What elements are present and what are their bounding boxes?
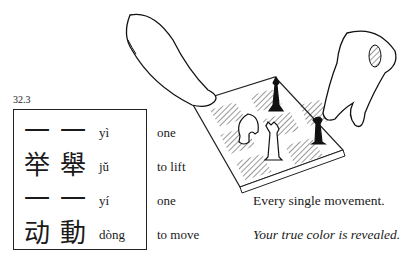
hanzi-simplified: 动 (24, 218, 50, 248)
hanzi-simplified: 一 (24, 184, 50, 214)
gloss: one (157, 193, 176, 209)
left-hand-icon (126, 14, 216, 106)
hanzi-traditional: 一 (60, 184, 86, 214)
hanzi-simplified: 举 (24, 150, 50, 180)
pinyin: dòng (99, 227, 125, 243)
hanzi-traditional: 舉 (60, 150, 86, 180)
figurative-translation: Your true color is revealed. (253, 227, 400, 243)
hanzi-simplified: 一 (24, 116, 50, 146)
section-number: 32.3 (13, 94, 31, 105)
pinyin: yí (99, 193, 109, 209)
hanzi-traditional: 動 (60, 218, 86, 248)
right-hand-icon (323, 31, 396, 126)
chess-hands-illustration (100, 0, 411, 195)
gloss: to move (157, 227, 199, 243)
vocab-row: 动 動 dòng (14, 218, 146, 252)
literal-translation: Every single movement. (253, 193, 385, 209)
hanzi-traditional: 一 (60, 116, 86, 146)
